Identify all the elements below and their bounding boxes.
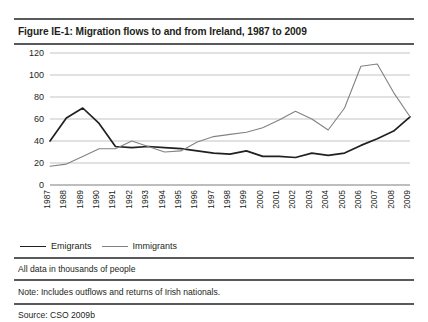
- x-tick-label: 2004: [320, 190, 330, 209]
- x-tick-label: 2002: [287, 190, 297, 209]
- x-tick-label: 2001: [271, 190, 281, 209]
- x-tick-label: 1997: [206, 190, 216, 209]
- x-tick-label: 1994: [157, 190, 167, 209]
- x-tick-label: 1998: [222, 190, 232, 209]
- x-tick-label: 1995: [173, 190, 183, 209]
- y-tick-label: 100: [29, 70, 44, 80]
- y-tick-label: 40: [34, 136, 44, 146]
- chart-plot-area: 020406080100120 198719881989199019911992…: [14, 45, 414, 235]
- emigrants-line-swatch-icon: [20, 246, 46, 247]
- x-tick-label: 2005: [337, 190, 347, 209]
- data-series-group: [50, 64, 410, 166]
- x-tick-label: 2008: [386, 190, 396, 209]
- chart-legend: Emigrants Immigrants: [14, 235, 414, 257]
- series-line-emigrants: [50, 108, 410, 158]
- legend-label-immigrants: Immigrants: [133, 241, 178, 251]
- x-tick-label: 1992: [124, 190, 134, 209]
- x-tick-label: 2003: [304, 190, 314, 209]
- legend-entry-immigrants: Immigrants: [102, 241, 178, 251]
- x-tick-label: 2000: [255, 190, 265, 209]
- x-tick-label: 2007: [369, 190, 379, 209]
- x-tick-label: 1996: [189, 190, 199, 209]
- migration-line-chart: 020406080100120 198719881989199019911992…: [14, 45, 414, 235]
- legend-label-emigrants: Emigrants: [51, 241, 92, 251]
- figure-note: Note: Includes outflows and returns of I…: [14, 281, 414, 303]
- y-tick-label: 60: [34, 114, 44, 124]
- y-tick-label: 80: [34, 92, 44, 102]
- figure-source: Source: CSO 2009b: [14, 305, 414, 322]
- gridlines-group: [50, 53, 410, 185]
- x-tick-label: 1991: [107, 190, 117, 209]
- y-tick-label: 120: [29, 48, 44, 58]
- y-tick-label: 0: [39, 180, 44, 190]
- x-tick-label: 1989: [75, 190, 85, 209]
- immigrants-line-swatch-icon: [102, 246, 128, 247]
- x-tick-label: 1999: [238, 190, 248, 209]
- x-tick-label: 1987: [42, 190, 52, 209]
- y-tick-label: 20: [34, 158, 44, 168]
- x-tick-label: 1988: [58, 190, 68, 209]
- figure-title: Figure IE-1: Migration flows to and from…: [14, 20, 414, 43]
- figure-container: Figure IE-1: Migration flows to and from…: [14, 18, 414, 304]
- x-axis-tick-labels: 1987198819891990199119921993199419951996…: [42, 190, 412, 209]
- series-line-immigrants: [50, 64, 410, 166]
- units-note: All data in thousands of people: [14, 259, 414, 279]
- legend-entry-emigrants: Emigrants: [20, 241, 92, 251]
- x-tick-label: 1993: [140, 190, 150, 209]
- x-tick-label: 2009: [402, 190, 412, 209]
- y-axis-tick-labels: 020406080100120: [29, 48, 44, 190]
- x-tick-label: 1990: [91, 190, 101, 209]
- x-tick-label: 2006: [353, 190, 363, 209]
